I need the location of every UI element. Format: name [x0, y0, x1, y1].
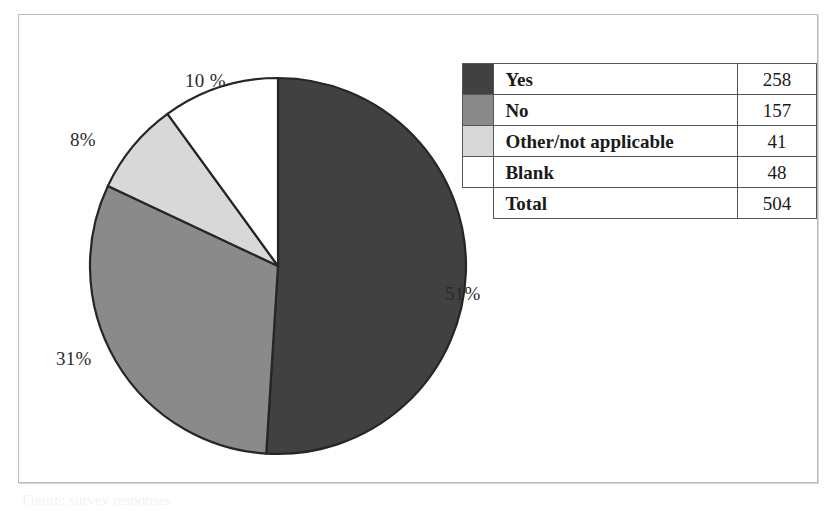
row-label: Other/not applicable [494, 126, 738, 157]
legend-data-table: Yes258No157Other/not applicable41Blank48… [462, 63, 817, 219]
row-value: 258 [738, 64, 817, 95]
figure-frame: 10 % 8% 31% 51% Yes258No157Other/not app… [18, 14, 818, 483]
pie-label-other: 8% [70, 129, 96, 151]
row-label: Total [494, 188, 738, 219]
table-row: Blank48 [463, 157, 817, 188]
row-value: 504 [738, 188, 817, 219]
pie-chart: 10 % 8% 31% 51% [70, 76, 460, 476]
legend-swatch-cell [463, 157, 494, 188]
row-label: Yes [494, 64, 738, 95]
pie-label-yes: 51% [445, 283, 481, 305]
pie-label-blank: 10 % [185, 70, 226, 92]
table-row: Yes258 [463, 64, 817, 95]
legend-swatch-cell [463, 126, 494, 157]
legend-swatch-cell [463, 95, 494, 126]
pie-slice-group [90, 78, 466, 454]
legend-swatch-cell [463, 64, 494, 95]
row-value: 41 [738, 126, 817, 157]
row-label: No [494, 95, 738, 126]
legend-table-body: Yes258No157Other/not applicable41Blank48… [463, 64, 817, 219]
pie-slice-yes [266, 78, 466, 454]
legend-swatch-cell [463, 188, 494, 219]
table-row: Other/not applicable41 [463, 126, 817, 157]
table-row: No157 [463, 95, 817, 126]
row-value: 157 [738, 95, 817, 126]
color-swatch-icon [463, 64, 493, 94]
row-label: Blank [494, 157, 738, 188]
row-value: 48 [738, 157, 817, 188]
table-row: Total504 [463, 188, 817, 219]
color-swatch-icon [463, 126, 493, 156]
color-swatch-icon [463, 95, 493, 125]
caption-remnant: Figure: survey responses [22, 492, 442, 506]
pie-label-no: 31% [56, 348, 92, 370]
color-swatch-icon [463, 157, 493, 187]
pie-chart-svg [88, 76, 468, 456]
